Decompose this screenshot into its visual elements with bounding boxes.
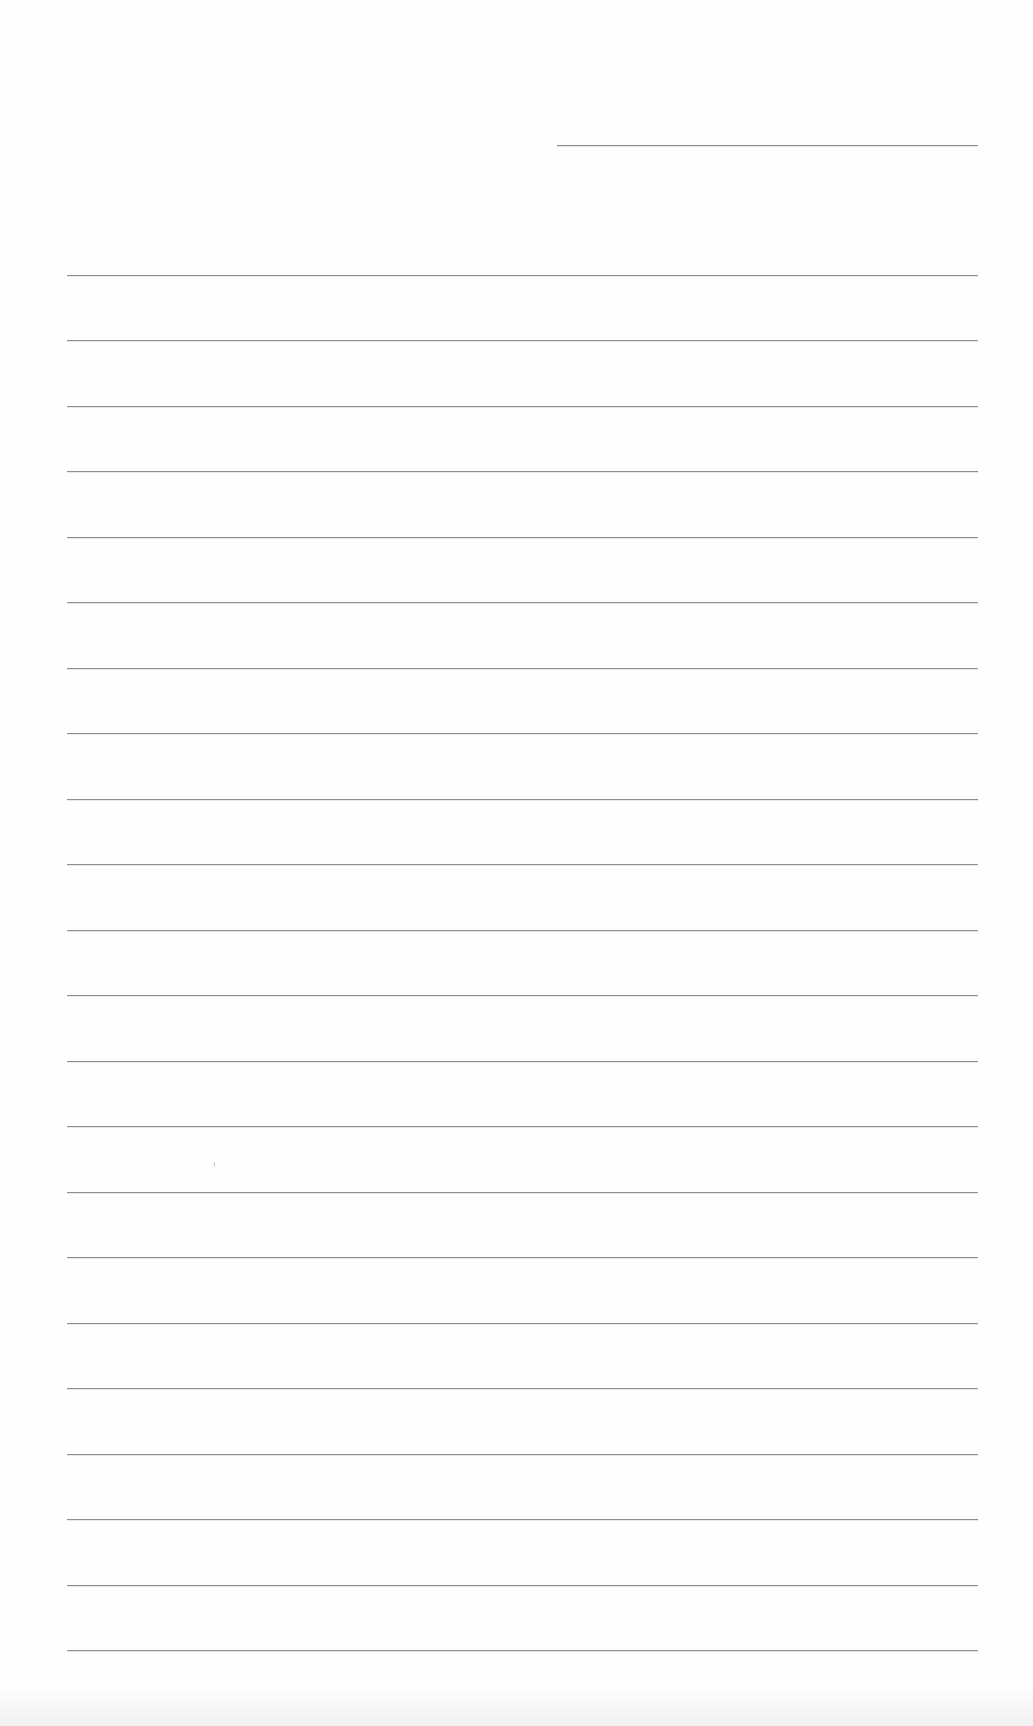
ruled-line (67, 340, 978, 341)
ruled-line (67, 864, 978, 865)
ruled-line (67, 1454, 978, 1455)
ruled-line (67, 1192, 978, 1193)
paper-speck (214, 1162, 215, 1167)
lined-paper-page (0, 0, 1033, 1726)
bottom-shadow (0, 1686, 1033, 1726)
ruled-line (67, 1257, 978, 1258)
ruled-line (67, 668, 978, 669)
ruled-line (67, 602, 978, 603)
ruled-line (67, 995, 978, 996)
ruled-line (67, 1061, 978, 1062)
ruled-line (67, 1388, 978, 1389)
ruled-line (67, 1650, 978, 1651)
ruled-line (67, 799, 978, 800)
ruled-line (67, 537, 978, 538)
ruled-line (67, 1585, 978, 1586)
ruled-line (67, 1126, 978, 1127)
ruled-line (67, 471, 978, 472)
ruled-line (67, 930, 978, 931)
ruled-line (67, 1323, 978, 1324)
ruled-line (67, 733, 978, 734)
header-rule (557, 145, 978, 146)
ruled-line (67, 1519, 978, 1520)
ruled-line (67, 406, 978, 407)
ruled-line (67, 275, 978, 276)
